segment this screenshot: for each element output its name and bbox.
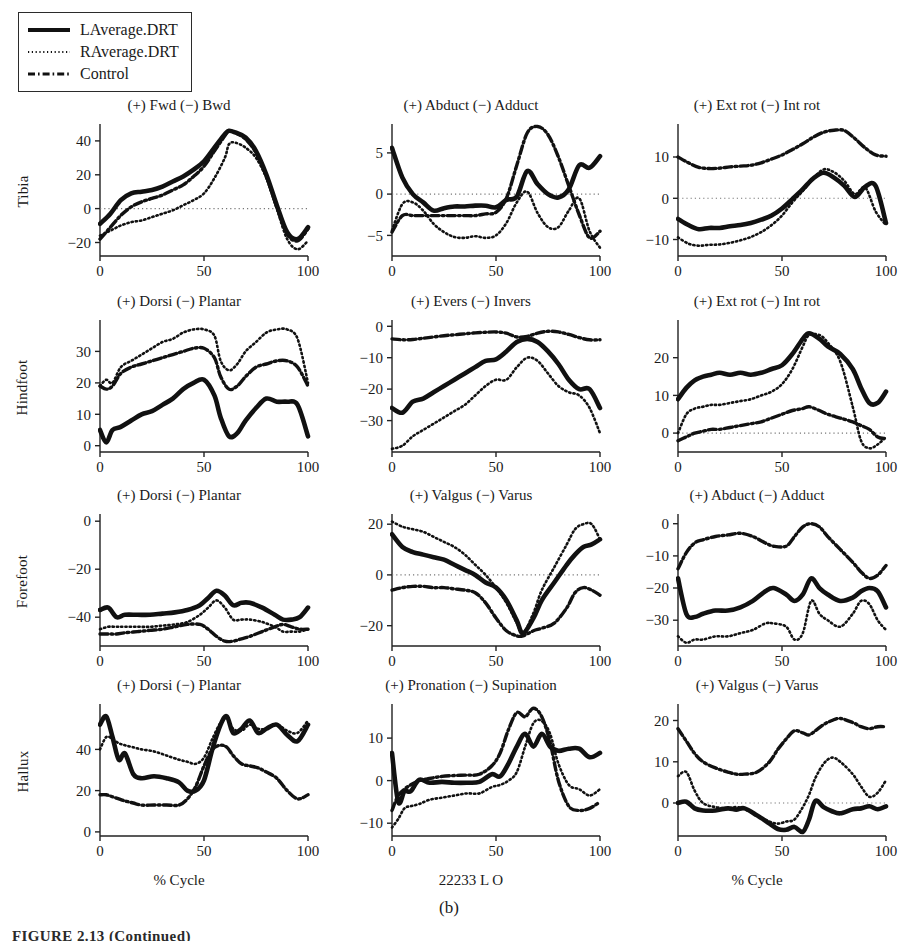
svg-text:0: 0 [84,824,92,840]
svg-text:−30: −30 [360,413,383,429]
svg-text:40: 40 [76,742,91,758]
svg-text:10: 10 [654,149,669,165]
plot-row-hallux: Hallux(+) Dorsi (−) Plantar02040050100(+… [0,676,898,866]
plot-hindfoot-evers-invers: (+) Evers (−) Invers−30−20−100050100 [330,292,612,482]
svg-text:40: 40 [76,133,91,149]
plot-forefoot-abduct-adduct: (+) Abduct (−) Adduct−30−20−100050100 [616,486,898,676]
legend-item-0: LAverage.DRT [27,19,179,41]
svg-text:0: 0 [376,186,384,202]
svg-text:50: 50 [775,263,790,279]
plot-forefoot-valgus-varus: (+) Valgus (−) Varus−20020050100 [330,486,612,676]
svg-text:100: 100 [589,263,612,279]
svg-text:0: 0 [674,263,682,279]
svg-text:20: 20 [76,167,91,183]
row-label-text: Tibia [15,175,32,207]
svg-text:100: 100 [297,653,320,669]
plot-forefoot-dorsi-plantar: (+) Dorsi (−) Plantar−40−200050100 [38,486,320,676]
svg-text:−10: −10 [646,548,669,564]
plot-title-hallux-dorsi-plantar: (+) Dorsi (−) Plantar [38,676,320,694]
svg-text:0: 0 [388,263,396,279]
plot-tibia-ext-int-rot: (+) Ext rot (−) Int rot−10010050100 [616,96,898,286]
svg-text:50: 50 [489,459,504,475]
dotted-line-swatch [27,45,71,59]
plot-title-forefoot-abduct-adduct: (+) Abduct (−) Adduct [616,486,898,504]
plot-canvas-hallux-dorsi-plantar: 02040050100 [38,696,320,866]
panel-letter: (b) [0,898,898,918]
legend-item-1: RAverage.DRT [27,41,179,63]
row-label-tibia: Tibia [8,96,38,286]
plot-canvas-forefoot-valgus-varus: −20020050100 [330,506,612,676]
svg-text:0: 0 [84,201,92,217]
svg-text:−30: −30 [646,612,669,628]
solid-line-swatch [27,23,71,37]
svg-text:0: 0 [96,263,104,279]
svg-text:50: 50 [197,459,212,475]
svg-text:0: 0 [84,513,92,529]
svg-text:5: 5 [376,145,384,161]
svg-text:30: 30 [76,344,91,360]
x-axis-label-left: % Cycle [38,872,320,889]
plot-hallux-pronation-supination: (+) Pronation (−) Supination−10010050100 [330,676,612,866]
svg-text:0: 0 [96,653,104,669]
svg-text:50: 50 [775,843,790,859]
svg-text:50: 50 [775,653,790,669]
plot-canvas-tibia-ext-int-rot: −10010050100 [616,116,898,286]
svg-text:−20: −20 [360,381,383,397]
svg-text:0: 0 [376,773,384,789]
svg-text:0: 0 [388,843,396,859]
x-axis-label-right: % Cycle [616,872,898,889]
plot-hallux-dorsi-plantar: (+) Dorsi (−) Plantar02040050100 [38,676,320,866]
plot-title-tibia-fwd-bwd: (+) Fwd (−) Bwd [38,96,320,114]
svg-text:−10: −10 [360,350,383,366]
plot-title-hallux-valgus-varus: (+) Valgus (−) Varus [616,676,898,694]
svg-text:100: 100 [875,843,898,859]
svg-text:0: 0 [674,653,682,669]
svg-text:20: 20 [76,375,91,391]
plot-title-tibia-ext-int-rot: (+) Ext rot (−) Int rot [616,96,898,114]
svg-text:0: 0 [376,567,384,583]
plot-grid: Tibia(+) Fwd (−) Bwd−2002040050100(+) Ab… [0,96,898,856]
plot-title-forefoot-dorsi-plantar: (+) Dorsi (−) Plantar [38,486,320,504]
svg-text:0: 0 [662,795,670,811]
plot-title-hallux-pronation-supination: (+) Pronation (−) Supination [330,676,612,694]
legend: LAverage.DRT RAverage.DRT Control [18,12,192,92]
svg-text:100: 100 [297,459,320,475]
svg-text:−10: −10 [646,232,669,248]
svg-text:20: 20 [654,713,669,729]
x-axis-label-center: 22233 L O [330,872,612,889]
plot-tibia-abduct-adduct: (+) Abduct (−) Adduct−505050100 [330,96,612,286]
legend-label-1: RAverage.DRT [80,44,179,60]
plot-hindfoot-ext-int-rot: (+) Ext rot (−) Int rot01020050100 [616,292,898,482]
plot-hindfoot-dorsi-plantar: (+) Dorsi (−) Plantar0102030050100 [38,292,320,482]
svg-text:20: 20 [76,783,91,799]
dashdot-line-swatch [27,67,71,81]
plot-title-hindfoot-evers-invers: (+) Evers (−) Invers [330,292,612,310]
svg-text:0: 0 [674,459,682,475]
plot-hallux-valgus-varus: (+) Valgus (−) Varus01020050100 [616,676,898,866]
svg-text:50: 50 [489,263,504,279]
plot-title-hindfoot-dorsi-plantar: (+) Dorsi (−) Plantar [38,292,320,310]
plot-canvas-forefoot-dorsi-plantar: −40−200050100 [38,506,320,676]
svg-text:100: 100 [297,263,320,279]
svg-text:0: 0 [662,516,670,532]
plot-canvas-tibia-abduct-adduct: −505050100 [330,116,612,286]
svg-text:0: 0 [662,425,670,441]
svg-text:−10: −10 [360,815,383,831]
plot-canvas-hindfoot-ext-int-rot: 01020050100 [616,312,898,482]
svg-text:100: 100 [875,653,898,669]
row-label-forefoot: Forefoot [8,486,38,676]
svg-text:20: 20 [368,516,383,532]
figure-root: LAverage.DRT RAverage.DRT Control Tibia(… [0,0,898,941]
plot-canvas-hindfoot-evers-invers: −30−20−100050100 [330,312,612,482]
svg-text:0: 0 [96,459,104,475]
svg-text:10: 10 [76,407,91,423]
svg-text:−20: −20 [68,561,91,577]
row-label-text: Hindfoot [15,359,32,415]
svg-text:100: 100 [589,653,612,669]
plot-canvas-tibia-fwd-bwd: −2002040050100 [38,116,320,286]
svg-text:20: 20 [654,350,669,366]
row-label-hindfoot: Hindfoot [8,292,38,482]
plot-canvas-hallux-pronation-supination: −10010050100 [330,696,612,866]
figure-caption: FIGURE 2.13 (Continued) [12,928,872,941]
svg-text:10: 10 [368,730,383,746]
